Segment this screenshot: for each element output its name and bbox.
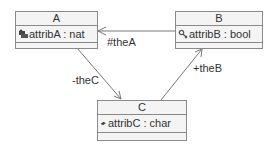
class-b-attribute[interactable]: attribB : bool (176, 26, 262, 43)
package-icon (178, 29, 189, 40)
class-c-name: C (98, 101, 186, 115)
role-label-theA: #theA (107, 36, 136, 48)
class-a-attribute[interactable]: attribA : nat (16, 26, 97, 43)
class-c-operations (98, 133, 186, 141)
class-c[interactable]: C attribC : char (97, 100, 187, 141)
class-a[interactable]: A attribA : nat (15, 11, 98, 49)
role-label-theC: -theC (72, 74, 99, 86)
class-a-name: A (16, 12, 97, 26)
class-b-operations (176, 43, 262, 51)
protected-key-icon (18, 29, 29, 40)
attribute-text: attribA : nat (29, 26, 85, 42)
attribute-text: attribB : bool (189, 26, 251, 42)
class-b-name: B (176, 12, 262, 26)
role-label-theB: +theB (193, 62, 222, 74)
class-c-attribute[interactable]: attribC : char (98, 115, 186, 133)
class-b[interactable]: B attribB : bool (175, 11, 263, 49)
association-c-to-b (161, 49, 202, 100)
private-diamond-icon (100, 118, 108, 129)
class-a-operations (16, 43, 97, 51)
attribute-text: attribC : char (108, 115, 171, 132)
